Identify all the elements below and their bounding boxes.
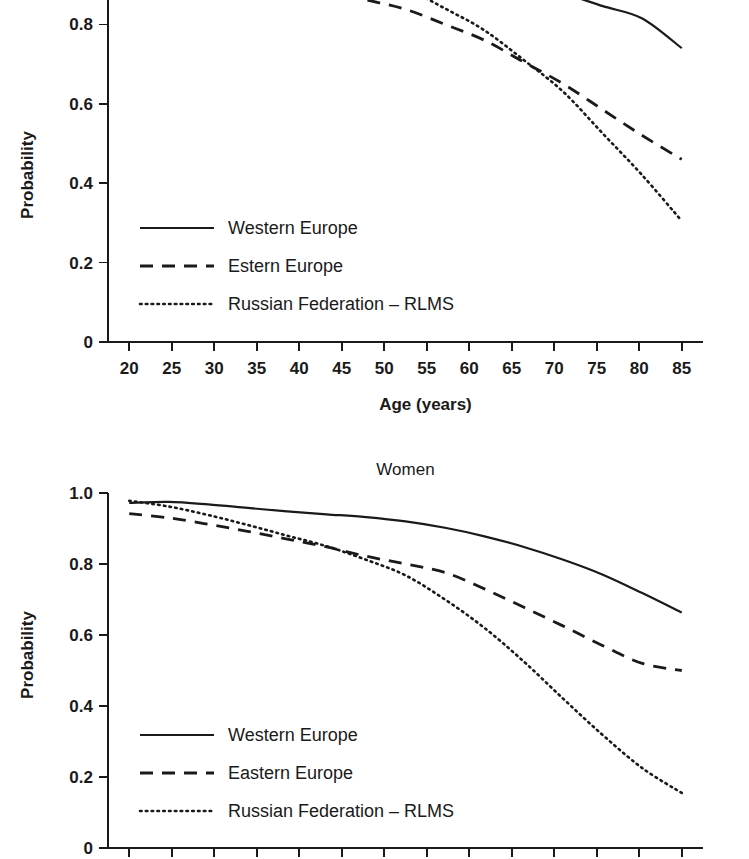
y-axis-title: Probability	[18, 131, 37, 219]
x-tick-label-20: 20	[120, 359, 139, 378]
legend-label-3: Russian Federation – RLMS	[228, 294, 454, 314]
chart-panel-women: 00.20.40.60.81.0ProbabilityWomenWestern …	[0, 430, 749, 859]
y-tick-label-0.6: 0.6	[69, 626, 93, 645]
legend-label-1: Western Europe	[228, 218, 358, 238]
y-tick-label-0.8: 0.8	[69, 15, 93, 34]
women-chart-svg: 00.20.40.60.81.0ProbabilityWomenWestern …	[0, 430, 749, 859]
y-tick-label-1.0: 1.0	[69, 484, 93, 503]
x-axis-title: Age (years)	[379, 395, 472, 414]
x-tick-label-40: 40	[290, 359, 309, 378]
legend: Western EuropeEastern EuropeRussian Fede…	[140, 725, 454, 821]
legend: Western EuropeEstern EuropeRussian Feder…	[140, 218, 454, 314]
series-line-solid	[129, 502, 682, 613]
x-tick-label-65: 65	[502, 359, 521, 378]
figure-survival-probability-by-age: 00.20.40.60.8202530354045505560657075808…	[0, 0, 749, 859]
series-line-dotted	[129, 501, 682, 793]
x-tick-label-85: 85	[672, 359, 691, 378]
y-tick-label-0: 0	[84, 839, 93, 858]
y-tick-label-0.2: 0.2	[69, 768, 93, 787]
series-line-dotted	[129, 0, 682, 221]
men-chart-svg: 00.20.40.60.8202530354045505560657075808…	[0, 0, 749, 430]
y-tick-label-0.8: 0.8	[69, 555, 93, 574]
series-line-dashed	[129, 0, 682, 159]
legend-label-2: Eastern Europe	[228, 763, 353, 783]
series-line-dashed	[129, 514, 682, 671]
x-tick-label-80: 80	[630, 359, 649, 378]
legend-label-2: Estern Europe	[228, 256, 343, 276]
x-tick-label-70: 70	[545, 359, 564, 378]
panel-title: Women	[376, 460, 434, 479]
y-tick-label-0.2: 0.2	[69, 254, 93, 273]
y-tick-label-0.6: 0.6	[69, 95, 93, 114]
x-tick-label-75: 75	[587, 359, 606, 378]
legend-label-1: Western Europe	[228, 725, 358, 745]
x-tick-label-35: 35	[247, 359, 266, 378]
x-tick-label-25: 25	[162, 359, 181, 378]
y-tick-label-0.4: 0.4	[69, 697, 93, 716]
series-group	[129, 0, 682, 221]
series-line-solid	[129, 0, 682, 48]
chart-panel-men: 00.20.40.60.8202530354045505560657075808…	[0, 0, 749, 430]
x-tick-label-55: 55	[417, 359, 436, 378]
y-axis-title: Probability	[18, 611, 37, 699]
x-tick-label-50: 50	[375, 359, 394, 378]
series-group	[129, 501, 682, 793]
x-tick-label-45: 45	[332, 359, 351, 378]
x-tick-label-30: 30	[205, 359, 224, 378]
legend-label-3: Russian Federation – RLMS	[228, 801, 454, 821]
y-tick-label-0.4: 0.4	[69, 174, 93, 193]
y-tick-label-0: 0	[84, 333, 93, 352]
x-tick-label-60: 60	[460, 359, 479, 378]
